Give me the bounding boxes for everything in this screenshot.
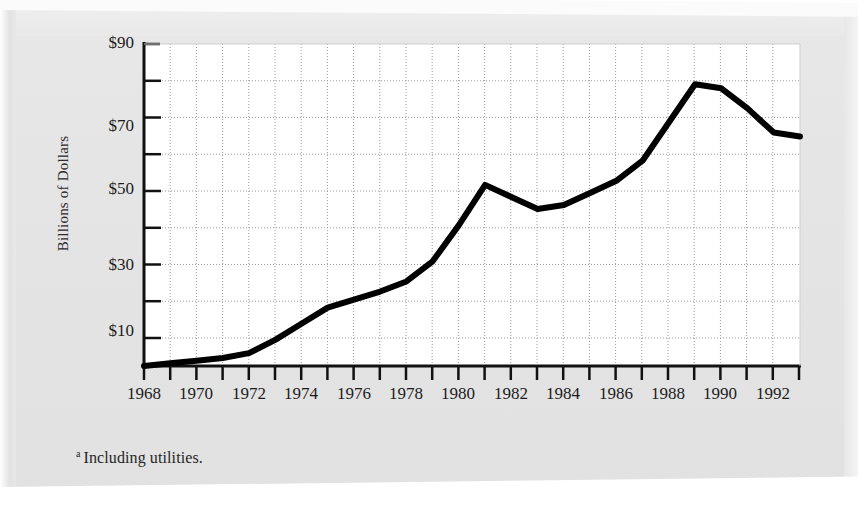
- footnote-text: Including utilities.: [84, 449, 203, 466]
- line-chart-figure: Billions of Dollars $90 $70 $50 $30 $10: [0, 0, 858, 529]
- x-tick-label-1992: 1992: [738, 385, 808, 402]
- footnote: aIncluding utilities.: [76, 448, 203, 467]
- footnote-marker: a: [76, 448, 81, 459]
